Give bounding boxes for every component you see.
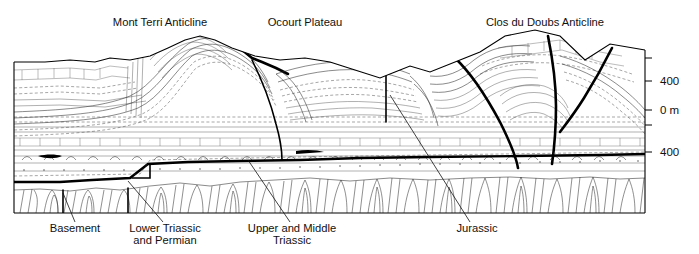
unit-label-line: and Permian xyxy=(133,234,196,246)
structure-label-clos-du-doubs: Clos du Doubs Anticline xyxy=(486,16,604,28)
unit-label-lower-triassic-permian: Lower Triassicand Permian xyxy=(129,222,201,246)
scale-tick-label: 400 xyxy=(660,146,679,158)
cross-section-svg: 4000 m400 Mont Terri AnticlineOcourt Pla… xyxy=(0,0,699,254)
unit-label-line: Jurassic xyxy=(456,222,497,234)
structure-labels: Mont Terri AnticlineOcourt PlateauClos d… xyxy=(113,16,604,28)
cross-section-figure: 4000 m400 Mont Terri AnticlineOcourt Pla… xyxy=(0,0,699,254)
unit-label-jurassic: Jurassic xyxy=(456,222,497,234)
scale-tick-label: 400 xyxy=(660,75,679,87)
scale-tick-label: 0 m xyxy=(660,104,679,116)
section-body xyxy=(0,0,699,254)
unit-label-basement: Basement xyxy=(50,222,101,234)
unit-label-upper-middle-triassic: Upper and MiddleTriassic xyxy=(248,222,336,246)
scale-labels: 4000 m400 xyxy=(660,75,679,158)
unit-label-line: Lower Triassic xyxy=(129,222,201,234)
unit-label-line: Triassic xyxy=(273,234,312,246)
unit-labels: BasementLower Triassicand PermianUpper a… xyxy=(50,222,498,246)
scale-bar xyxy=(645,58,652,152)
unit-label-line: Upper and Middle xyxy=(248,222,336,234)
unit-label-line: Basement xyxy=(50,222,101,234)
structure-label-ocourt: Ocourt Plateau xyxy=(268,16,343,28)
structure-label-mont-terri: Mont Terri Anticline xyxy=(113,16,207,28)
